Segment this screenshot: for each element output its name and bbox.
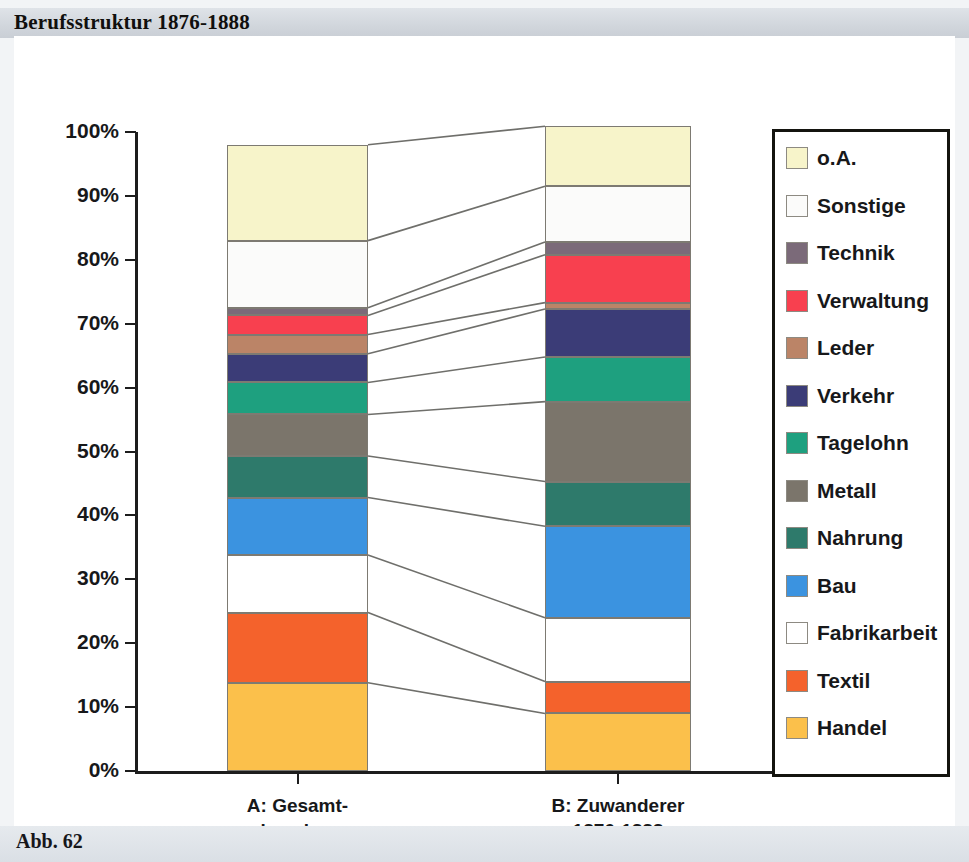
x-axis-line	[135, 771, 794, 774]
y-axis-tick	[125, 514, 136, 516]
legend-item-label: Verkehr	[817, 384, 894, 408]
legend-item-label: Handel	[817, 716, 887, 740]
y-axis-tick	[125, 770, 136, 772]
x-axis-label-line: B: Zuwanderer	[498, 793, 738, 818]
y-axis-tick-label: 0%	[35, 758, 119, 782]
bar-segment	[227, 414, 368, 456]
legend-item-leder[interactable]: Leder	[786, 333, 874, 363]
y-axis-tick-label: 60%	[35, 375, 119, 399]
y-axis-tick	[125, 451, 136, 453]
connector-line	[368, 683, 545, 714]
bar-segment	[545, 255, 691, 303]
stacked-bar-b	[545, 132, 691, 771]
y-axis-tick	[125, 642, 136, 644]
bar-segment	[227, 308, 368, 316]
legend-item-label: Leder	[817, 336, 874, 360]
chart-canvas: 100%90%80%70%60%50%40%30%20%10%0% A: Ges…	[14, 36, 955, 826]
bar-segment	[227, 555, 368, 613]
legend-swatch-icon	[786, 385, 808, 407]
legend: o.A.SonstigeTechnikVerwaltungLederVerkeh…	[772, 129, 950, 777]
y-axis-tick	[125, 706, 136, 708]
bar-segment	[545, 618, 691, 682]
bar-segment	[545, 357, 691, 402]
legend-item-label: o.A.	[817, 146, 857, 170]
y-axis-line	[135, 132, 138, 774]
bar-segment	[545, 126, 691, 186]
connector-line	[368, 255, 545, 316]
legend-item-o-a-[interactable]: o.A.	[786, 143, 857, 173]
bar-segment	[227, 382, 368, 414]
legend-item-metall[interactable]: Metall	[786, 476, 877, 506]
bar-segment	[227, 145, 368, 241]
x-axis-tick	[617, 774, 619, 784]
legend-item-verkehr[interactable]: Verkehr	[786, 381, 894, 411]
connector-line	[368, 402, 545, 415]
legend-item-fabrikarbeit[interactable]: Fabrikarbeit	[786, 618, 937, 648]
connector-line	[368, 303, 545, 335]
legend-swatch-icon	[786, 432, 808, 454]
y-axis-tick-label: 50%	[35, 439, 119, 463]
bar-segment	[227, 613, 368, 683]
connector-line	[368, 555, 545, 618]
y-axis-tick	[125, 131, 136, 133]
bar-segment	[227, 683, 368, 771]
y-axis-tick-label: 70%	[35, 311, 119, 335]
legend-item-bau[interactable]: Bau	[786, 571, 857, 601]
bar-segment	[545, 309, 691, 357]
connector-line	[368, 309, 545, 354]
legend-item-label: Bau	[817, 574, 857, 598]
legend-item-label: Technik	[817, 241, 895, 265]
x-axis-label-line: A: Gesamt-	[178, 793, 418, 818]
connector-line	[368, 242, 545, 308]
legend-item-nahrung[interactable]: Nahrung	[786, 523, 903, 553]
legend-swatch-icon	[786, 670, 808, 692]
legend-swatch-icon	[786, 290, 808, 312]
bar-segment	[227, 456, 368, 498]
bar-segment	[545, 303, 691, 309]
figure-caption: Abb. 62	[16, 830, 83, 853]
bar-segment	[545, 682, 691, 714]
y-axis-tick-label: 30%	[35, 566, 119, 590]
y-axis-tick-label: 80%	[35, 247, 119, 271]
y-axis-tick-label: 10%	[35, 694, 119, 718]
connector-line	[368, 456, 545, 482]
connector-line	[368, 186, 545, 240]
legend-item-label: Metall	[817, 479, 877, 503]
y-axis-tick-label: 20%	[35, 630, 119, 654]
legend-item-technik[interactable]: Technik	[786, 238, 895, 268]
legend-item-label: Fabrikarbeit	[817, 621, 937, 645]
legend-swatch-icon	[786, 575, 808, 597]
x-axis-tick	[297, 774, 299, 784]
y-axis-tick	[125, 387, 136, 389]
legend-item-tagelohn[interactable]: Tagelohn	[786, 428, 909, 458]
legend-item-label: Verwaltung	[817, 289, 929, 313]
bar-segment	[545, 402, 691, 482]
connector-line	[368, 126, 545, 145]
legend-swatch-icon	[786, 622, 808, 644]
legend-swatch-icon	[786, 527, 808, 549]
legend-item-verwaltung[interactable]: Verwaltung	[786, 286, 929, 316]
stacked-bar-a	[227, 132, 368, 771]
legend-item-textil[interactable]: Textil	[786, 666, 870, 696]
y-axis-tick-label: 90%	[35, 183, 119, 207]
legend-item-label: Nahrung	[817, 526, 903, 550]
bar-segment	[227, 354, 368, 383]
legend-swatch-icon	[786, 242, 808, 264]
connector-line	[368, 613, 545, 682]
legend-item-sonstige[interactable]: Sonstige	[786, 191, 906, 221]
y-axis-tick	[125, 323, 136, 325]
connector-line	[368, 357, 545, 383]
bar-segment	[545, 186, 691, 242]
y-axis-tick	[125, 195, 136, 197]
legend-swatch-icon	[786, 147, 808, 169]
connector-line	[368, 498, 545, 527]
legend-item-handel[interactable]: Handel	[786, 713, 887, 743]
bar-segment	[545, 242, 691, 255]
legend-swatch-icon	[786, 480, 808, 502]
legend-swatch-icon	[786, 337, 808, 359]
legend-swatch-icon	[786, 195, 808, 217]
legend-item-label: Textil	[817, 669, 870, 693]
y-axis-tick-label: 40%	[35, 502, 119, 526]
bar-segment	[227, 241, 368, 308]
figure-title-bar: Berufsstruktur 1876-1888	[0, 8, 969, 38]
